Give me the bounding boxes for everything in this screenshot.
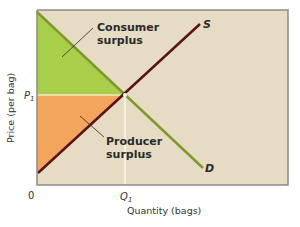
x-axis-title: Quantity (bags) <box>127 205 201 216</box>
consumer-surplus-label-line1: Consumer <box>97 21 160 34</box>
producer-surplus-label-line1: Producer <box>106 135 163 148</box>
supply-label: S <box>203 18 211 31</box>
consumer-surplus-label-line2: surplus <box>97 34 143 47</box>
producer-surplus-label-line2: surplus <box>106 148 152 161</box>
surplus-chart: Consumer surplus Producer surplus S D P1… <box>0 0 300 227</box>
equilibrium-point <box>123 93 127 97</box>
origin-label: 0 <box>28 190 34 201</box>
q1-tick-label: Q1 <box>120 191 132 204</box>
p1-tick-label: P1 <box>24 90 35 103</box>
demand-label: D <box>205 162 214 175</box>
y-axis-title: Price (per bag) <box>5 73 16 143</box>
